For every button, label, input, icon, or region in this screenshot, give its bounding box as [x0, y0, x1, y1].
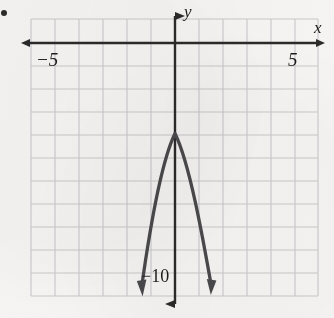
y-axis-tick-label-negative-10: −10	[141, 267, 169, 285]
x-axis-label: x	[314, 19, 322, 36]
bullet-marker-icon	[1, 10, 7, 16]
x-axis-tick-label-negative-5: −5	[36, 50, 58, 69]
x-axis-tick-label-positive-5: 5	[288, 50, 298, 69]
y-axis-label: y	[184, 3, 192, 20]
